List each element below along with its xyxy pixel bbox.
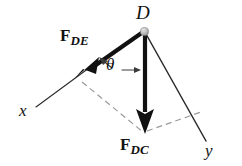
force-vector-diagram: D x y θ FDE FDC [0, 0, 242, 166]
label-angle-theta: θ [106, 56, 114, 73]
label-force-de-subscript: DE [70, 33, 88, 48]
node-point-d [140, 27, 148, 35]
label-point-d: D [136, 3, 150, 22]
label-force-de-symbol: F [60, 26, 70, 45]
label-force-dc: FDC [120, 136, 149, 156]
dashed-line-right [147, 112, 201, 131]
label-force-dc-subscript: DC [130, 142, 148, 157]
force-dc-vector [136, 33, 154, 134]
axis-x-line [36, 65, 93, 107]
label-force-de: FDE [60, 27, 89, 47]
label-force-dc-symbol: F [120, 135, 130, 154]
axis-y-line [146, 34, 206, 141]
label-axis-x: x [19, 102, 27, 119]
label-axis-y: y [205, 142, 213, 159]
dashed-line-left [82, 82, 143, 132]
angle-arrowhead-right [134, 67, 141, 73]
